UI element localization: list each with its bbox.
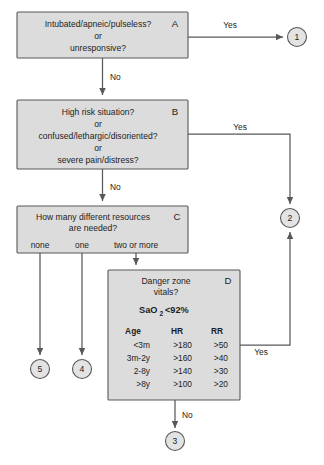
vitals-table: Age HR RR <3m >180 >50 3m-2y >160 >40 2-… [125,326,228,389]
outcome-node-1[interactable]: 1 [288,28,307,47]
decision-box-d[interactable]: Danger zone vitals? D SaO 2 <92% Age HR … [108,270,240,400]
decision-box-c-line-2: are needed? [69,223,117,233]
outcome-node-4[interactable]: 4 [73,360,92,379]
decision-box-b-line-3: confused/lethargic/disoriented? [39,131,158,141]
decision-box-d-line-2: vitals? [154,287,179,297]
decision-box-d-letter: D [225,275,232,286]
outcome-label-4: 4 [80,364,85,374]
decision-box-b-line-5: severe pain/distress? [57,155,138,165]
outcome-label-3: 3 [173,436,178,446]
flowchart-svg: Yes No Yes No Yes No Intubated/apneic/pu… [0,0,324,465]
edge-label-b-yes: Yes [233,122,247,132]
vitals-cell-rr: >30 [214,366,229,376]
vitals-cell-age: <3m [133,340,150,350]
edge-label-a-no: No [110,72,121,82]
outcome-label-2: 2 [288,213,293,223]
sao2-label: SaO [139,305,157,315]
vitals-header-age: Age [125,326,141,336]
decision-box-b-line-4: or [94,143,102,153]
outcome-label-1: 1 [295,32,300,42]
vitals-table-row: 2-8y >140 >30 [134,366,229,376]
connector-b-yes [188,134,290,204]
vitals-cell-hr: >180 [173,340,192,350]
sao2-value: <92% [165,305,189,315]
outcome-label-5: 5 [38,364,43,374]
vitals-table-row: 3m-2y >160 >40 [127,353,229,363]
edge-label-b-no: No [110,182,121,192]
vitals-cell-hr: >100 [173,379,192,389]
decision-box-c-letter: C [174,211,181,222]
vitals-cell-age: >8y [136,379,151,389]
vitals-cell-rr: >40 [214,353,229,363]
vitals-cell-age: 2-8y [134,366,151,376]
decision-box-b-letter: B [172,106,178,117]
edge-label-a-yes: Yes [223,20,237,30]
decision-box-a-line-3: unresponsive? [70,43,126,53]
vitals-cell-hr: >140 [173,366,192,376]
sao2-subscript: 2 [160,310,164,317]
decision-box-a[interactable]: Intubated/apneic/pulseless? or unrespons… [17,12,188,58]
option-none[interactable]: none [31,240,50,250]
vitals-header-rr: RR [211,326,223,336]
decision-box-a-letter: A [172,18,179,29]
decision-box-c[interactable]: How many different resources are needed?… [17,206,188,253]
edge-label-d-no: No [182,410,193,420]
vitals-cell-age: 3m-2y [127,353,151,363]
outcome-node-3[interactable]: 3 [166,432,185,451]
outcome-node-2[interactable]: 2 [281,209,300,228]
decision-box-d-line-1: Danger zone [141,276,190,286]
vitals-header-hr: HR [171,326,183,336]
vitals-table-row: <3m >180 >50 [133,340,228,350]
decision-box-a-line-1: Intubated/apneic/pulseless? [45,19,152,29]
outcome-node-5[interactable]: 5 [31,360,50,379]
option-one[interactable]: one [75,240,89,250]
decision-box-b[interactable]: High risk situation? or confused/letharg… [17,100,188,169]
decision-box-b-line-1: High risk situation? [62,107,135,117]
flowchart-canvas: Yes No Yes No Yes No Intubated/apneic/pu… [0,0,324,465]
decision-box-c-line-1: How many different resources [36,212,150,222]
option-two-or-more[interactable]: two or more [114,240,159,250]
vitals-cell-hr: >160 [173,353,192,363]
vitals-cell-rr: >50 [214,340,229,350]
vitals-cell-rr: >20 [214,379,229,389]
decision-box-a-line-2: or [94,31,102,41]
edge-label-d-yes: Yes [254,347,268,357]
decision-box-b-line-2: or [94,119,102,129]
connector-d-yes [240,232,290,345]
